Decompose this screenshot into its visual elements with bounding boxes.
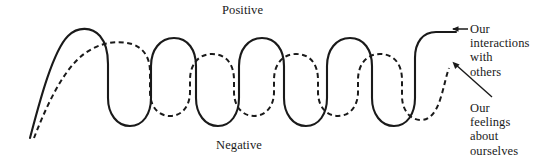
positive-axis-label: Positive xyxy=(222,3,263,18)
annotation-line: Our xyxy=(470,101,518,115)
annotation-line: about xyxy=(470,129,518,143)
solid-wave-path xyxy=(30,29,456,138)
annotation-line: feelings xyxy=(470,115,518,129)
annotation-line: interactions xyxy=(470,36,530,50)
annotation-line: with xyxy=(470,50,530,64)
annotation-our-interactions-with-others: Our interactions with others xyxy=(470,22,530,79)
annotation-line: Our xyxy=(470,22,530,36)
annotation-line: others xyxy=(470,65,530,79)
annotation-line: ourselves xyxy=(470,144,518,158)
diagram-canvas: Positive Negative Our interactions with … xyxy=(0,0,553,165)
negative-axis-label: Negative xyxy=(216,138,262,153)
annotation-our-feelings-about-ourselves: Our feelings about ourselves xyxy=(470,101,518,158)
